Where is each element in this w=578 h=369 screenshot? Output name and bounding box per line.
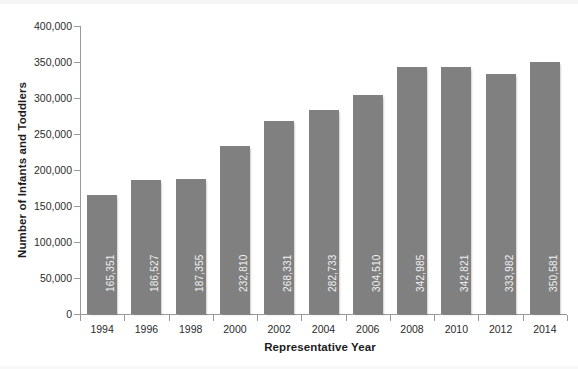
y-axis-tick xyxy=(74,134,80,135)
y-axis-tick-label-wrap: 100,000 xyxy=(0,236,72,249)
bar: 268,331 xyxy=(264,121,294,314)
bar: 186,527 xyxy=(131,180,161,314)
x-axis-tick xyxy=(213,315,214,321)
y-axis-tick-label-wrap: 300,000 xyxy=(0,92,72,105)
x-axis-tick xyxy=(434,315,435,321)
y-axis-tick-label: 300,000 xyxy=(6,92,72,104)
bar-value-label: 186,527 xyxy=(150,254,160,292)
bar-value-label: 187,355 xyxy=(195,254,205,292)
bar-value-label: 282,733 xyxy=(328,254,338,292)
x-axis-tick xyxy=(390,315,391,321)
x-axis-line xyxy=(80,314,567,315)
y-axis-tick-label-wrap: 50,000 xyxy=(0,272,72,285)
y-axis-tick-label-wrap: 200,000 xyxy=(0,164,72,177)
bar: 187,355 xyxy=(176,179,206,314)
bar-value-label: 342,985 xyxy=(416,254,426,292)
y-axis-tick xyxy=(74,26,80,27)
y-axis-tick-label-wrap: 250,000 xyxy=(0,128,72,141)
bar-value-label: 342,821 xyxy=(460,254,470,292)
bar: 232,810 xyxy=(220,146,250,314)
x-axis-tick xyxy=(124,315,125,321)
y-axis-tick-label: 150,000 xyxy=(6,200,72,212)
bar: 350,581 xyxy=(530,62,560,314)
x-axis-tick-label: 2014 xyxy=(515,323,575,335)
y-axis-tick-label-wrap: 350,000 xyxy=(0,56,72,69)
y-axis-tick xyxy=(74,278,80,279)
y-axis-tick-label: 400,000 xyxy=(6,20,72,32)
y-axis-tick-label: 350,000 xyxy=(6,56,72,68)
scan-artifact-top xyxy=(0,0,578,4)
bar-value-label: 268,331 xyxy=(283,254,293,292)
y-axis-tick xyxy=(74,62,80,63)
bar: 333,982 xyxy=(486,74,516,314)
bar-value-label: 350,581 xyxy=(549,254,559,292)
x-axis-title: Representative Year xyxy=(80,341,560,353)
y-axis-tick xyxy=(74,242,80,243)
bar: 282,733 xyxy=(309,110,339,314)
bar: 342,985 xyxy=(397,67,427,314)
y-axis-line xyxy=(80,26,81,315)
x-axis-tick xyxy=(567,315,568,321)
y-axis-tick xyxy=(74,170,80,171)
x-axis-tick xyxy=(523,315,524,321)
y-axis-tick-label-wrap: 400,000 xyxy=(0,20,72,33)
bar: 342,821 xyxy=(441,67,471,314)
y-axis-tick xyxy=(74,206,80,207)
y-axis-tick xyxy=(74,98,80,99)
x-axis-tick xyxy=(301,315,302,321)
y-axis-tick-label: 50,000 xyxy=(6,272,72,284)
bar: 304,510 xyxy=(353,95,383,314)
x-axis-tick xyxy=(478,315,479,321)
bar-value-label: 232,810 xyxy=(239,254,249,292)
y-axis-tick-label: 100,000 xyxy=(6,236,72,248)
bar-value-label: 165,351 xyxy=(106,254,116,292)
bar-value-label: 333,982 xyxy=(505,254,515,292)
y-axis-tick-label: 200,000 xyxy=(6,164,72,176)
x-axis-tick xyxy=(169,315,170,321)
y-axis-tick-label-wrap: 150,000 xyxy=(0,200,72,213)
y-axis-tick-label: 250,000 xyxy=(6,128,72,140)
bar-chart: Number of Infants and Toddlers Represent… xyxy=(0,0,578,369)
bar-value-label: 304,510 xyxy=(372,254,382,292)
x-axis-tick xyxy=(346,315,347,321)
x-axis-tick xyxy=(257,315,258,321)
y-axis-tick-label-wrap: 0 xyxy=(0,308,72,321)
x-axis-tick xyxy=(80,315,81,321)
y-axis-tick-label: 0 xyxy=(6,308,72,320)
bar: 165,351 xyxy=(87,195,117,314)
